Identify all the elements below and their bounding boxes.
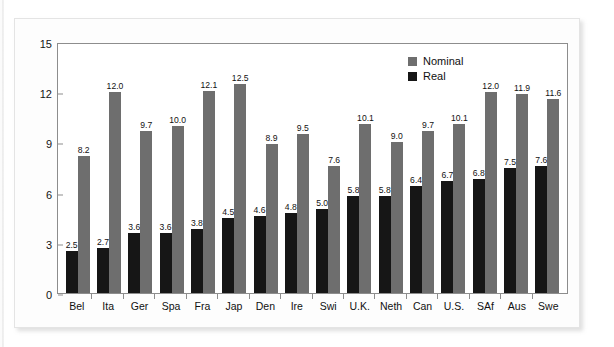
- legend-item-nominal: Nominal: [408, 56, 463, 67]
- bar-value-label: 12.0: [482, 81, 499, 91]
- bar-value-label: 11.9: [514, 83, 530, 93]
- bar-real-swe: 7.6: [535, 166, 547, 293]
- bar-value-label: 7.6: [328, 155, 340, 165]
- bar-value-label: 5.0: [316, 198, 328, 208]
- bar-nominal-jap: 12.5: [234, 84, 246, 293]
- bar-real-bel: 2.5: [66, 251, 78, 293]
- bar-real-ire: 4.8: [285, 213, 297, 293]
- legend-swatch-real-icon: [408, 72, 417, 81]
- legend-label-real: Real: [423, 71, 446, 82]
- bar-value-label: 7.6: [535, 155, 547, 165]
- bar-value-label: 10.1: [451, 113, 468, 123]
- x-tick-label-den: Den: [250, 294, 281, 312]
- x-tick-label-spa: Spa: [155, 294, 186, 312]
- y-tick-label-12: 12: [40, 88, 58, 100]
- bar-value-label: 6.4: [410, 175, 422, 185]
- bar-value-label: 3.6: [160, 222, 172, 232]
- bar-nominal-neth: 9.0: [391, 142, 403, 293]
- bar-group-aus: 7.511.9: [500, 44, 531, 293]
- x-tick-label-jap: Jap: [218, 294, 249, 312]
- bar-group-spa: 3.610.0: [156, 44, 187, 293]
- y-tick-label-6: 6: [46, 189, 58, 201]
- bar-value-label: 4.6: [254, 205, 266, 215]
- bar-group-fra: 3.812.1: [187, 44, 218, 293]
- bar-real-swi: 5.0: [316, 209, 328, 293]
- bar-group-swe: 7.611.6: [532, 44, 563, 293]
- bar-value-label: 12.1: [201, 80, 218, 90]
- bar-real-ger: 3.6: [128, 233, 140, 293]
- bar-value-label: 6.8: [473, 168, 485, 178]
- bar-value-label: 8.2: [78, 145, 90, 155]
- bar-value-label: 9.5: [297, 123, 309, 133]
- bar-group-saf: 6.812.0: [469, 44, 500, 293]
- bar-group-den: 4.68.9: [250, 44, 281, 293]
- bar-group-ita: 2.712.0: [93, 44, 124, 293]
- bar-value-label: 5.8: [347, 185, 359, 195]
- bar-value-label: 12.0: [107, 81, 124, 91]
- x-tick-label-saf: SAf: [470, 294, 501, 312]
- bar-value-label: 10.1: [357, 113, 374, 123]
- x-tick-label-ger: Ger: [124, 294, 155, 312]
- y-tick-label-9: 9: [46, 138, 58, 150]
- x-tick-label-us: U.S.: [438, 294, 469, 312]
- bar-group-bel: 2.58.2: [62, 44, 93, 293]
- bar-group-uk: 5.810.1: [344, 44, 375, 293]
- x-tick-label-swi: Swi: [313, 294, 344, 312]
- bar-value-label: 12.5: [232, 73, 249, 83]
- bar-real-uk: 5.8: [347, 196, 359, 293]
- bar-real-fra: 3.8: [191, 229, 203, 293]
- bar-value-label: 11.6: [545, 88, 561, 98]
- bar-real-can: 6.4: [410, 186, 422, 293]
- bar-nominal-ire: 9.5: [297, 134, 309, 293]
- page-edge-artifact: [2, 0, 4, 347]
- bar-real-spa: 3.6: [160, 233, 172, 293]
- x-tick-label-neth: Neth: [375, 294, 406, 312]
- legend-item-real: Real: [408, 71, 463, 82]
- x-tick-label-ire: Ire: [281, 294, 312, 312]
- bar-nominal-fra: 12.1: [203, 91, 215, 293]
- bar-group-jap: 4.512.5: [219, 44, 250, 293]
- bar-group-ire: 4.89.5: [281, 44, 312, 293]
- bar-value-label: 7.5: [504, 157, 516, 167]
- x-tick-label-aus: Aus: [501, 294, 532, 312]
- bar-value-label: 6.7: [441, 170, 453, 180]
- bar-groups: 2.58.22.712.03.69.73.610.03.812.14.512.5…: [58, 44, 567, 293]
- x-tick-label-ita: Ita: [92, 294, 123, 312]
- bar-nominal-spa: 10.0: [172, 126, 184, 293]
- bar-value-label: 9.0: [391, 131, 403, 141]
- bar-value-label: 10.0: [169, 115, 186, 125]
- bar-nominal-can: 9.7: [422, 131, 434, 293]
- x-axis-labels: BelItaGerSpaFraJapDenIreSwiU.K.NethCanU.…: [57, 294, 568, 312]
- chart-figure: Annualized Percentage Return 03691215 2.…: [14, 18, 580, 328]
- y-tick-label-3: 3: [46, 239, 58, 251]
- bar-nominal-us: 10.1: [453, 124, 465, 293]
- plot-area: 03691215 2.58.22.712.03.69.73.610.03.812…: [57, 43, 568, 294]
- bar-nominal-swi: 7.6: [328, 166, 340, 293]
- bar-value-label: 8.9: [266, 133, 278, 143]
- bar-group-swi: 5.07.6: [313, 44, 344, 293]
- x-tick-label-fra: Fra: [187, 294, 218, 312]
- x-tick-label-can: Can: [407, 294, 438, 312]
- x-tick-label-swe: Swe: [533, 294, 564, 312]
- bar-nominal-uk: 10.1: [359, 124, 371, 293]
- bar-value-label: 3.8: [191, 218, 203, 228]
- bar-value-label: 2.7: [97, 237, 109, 247]
- bar-real-saf: 6.8: [473, 179, 485, 293]
- bar-nominal-saf: 12.0: [485, 92, 497, 293]
- bar-value-label: 2.5: [66, 240, 78, 250]
- bar-nominal-ita: 12.0: [109, 92, 121, 293]
- bar-value-label: 5.8: [379, 185, 391, 195]
- chart-legend: Nominal Real: [408, 56, 463, 86]
- bar-nominal-den: 8.9: [266, 144, 278, 293]
- bar-group-ger: 3.69.7: [125, 44, 156, 293]
- bar-real-aus: 7.5: [504, 168, 516, 294]
- bar-value-label: 9.7: [422, 120, 434, 130]
- bar-real-den: 4.6: [254, 216, 266, 293]
- bar-real-ita: 2.7: [97, 248, 109, 293]
- bar-value-label: 4.8: [285, 202, 297, 212]
- bar-nominal-ger: 9.7: [140, 131, 152, 293]
- bar-value-label: 9.7: [140, 120, 152, 130]
- x-tick-label-bel: Bel: [61, 294, 92, 312]
- bar-nominal-swe: 11.6: [547, 99, 559, 293]
- bar-real-neth: 5.8: [379, 196, 391, 293]
